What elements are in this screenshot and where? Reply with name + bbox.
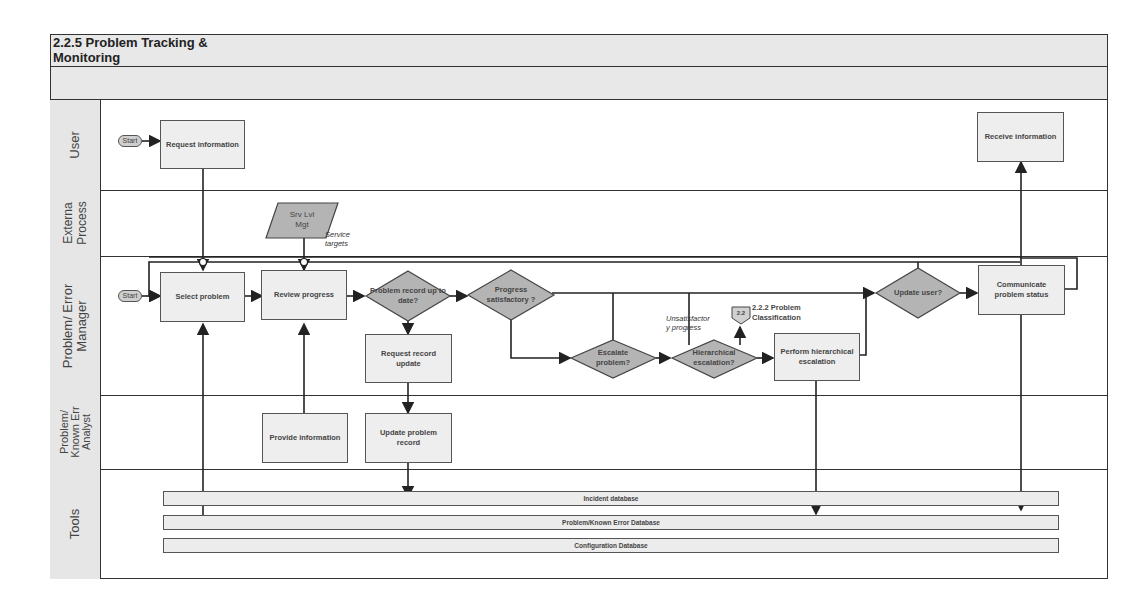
tool-incident-database[interactable]: Incident database: [163, 491, 1059, 506]
node-review-progress[interactable]: Review progress: [261, 270, 347, 320]
node-request-information[interactable]: Request information: [160, 120, 245, 169]
node-select-problem[interactable]: Select problem: [160, 272, 245, 322]
label-progress-satisfactory: Progress satisfactory ?: [476, 282, 546, 308]
label-escalate-problem: Escalate problem?: [585, 346, 641, 370]
node-request-record-update[interactable]: Request record update: [365, 334, 452, 383]
label-hierarchical-escalation: Hierarchical escalation?: [680, 346, 748, 370]
annotation-unsatisfactory-progress: Unsatisfactor y progress: [666, 314, 712, 332]
start-manager[interactable]: Start: [118, 290, 142, 302]
start-user[interactable]: Start: [118, 135, 142, 147]
node-srv-lvl-mgt[interactable]: Srv Lvl Mgt: [272, 205, 332, 235]
tool-problem-known-error-database[interactable]: Problem/Known Error Database: [163, 515, 1059, 530]
tool-configuration-database[interactable]: Configuration Database: [163, 538, 1059, 553]
node-communicate-problem-status[interactable]: Communicate problem status: [978, 265, 1065, 315]
node-receive-information[interactable]: Receive information: [977, 112, 1064, 162]
link-problem-classification[interactable]: 2.2.2 Problem Classification: [752, 303, 822, 323]
diagram-canvas: 2.2.5 Problem Tracking & Monitoring User…: [0, 0, 1138, 604]
label-problem-record-up-to-date: Problem record up to date?: [370, 283, 446, 309]
node-perform-hierarchical-escalation[interactable]: Perform hierarchical escalation: [774, 333, 860, 381]
offpage-ref-label: 2.2: [733, 308, 749, 318]
node-provide-information[interactable]: Provide information: [262, 413, 348, 463]
node-update-problem-record[interactable]: Update problem record: [365, 413, 452, 463]
label-update-user: Update user?: [884, 285, 952, 301]
annotation-service-targets: Service targets: [325, 230, 365, 248]
